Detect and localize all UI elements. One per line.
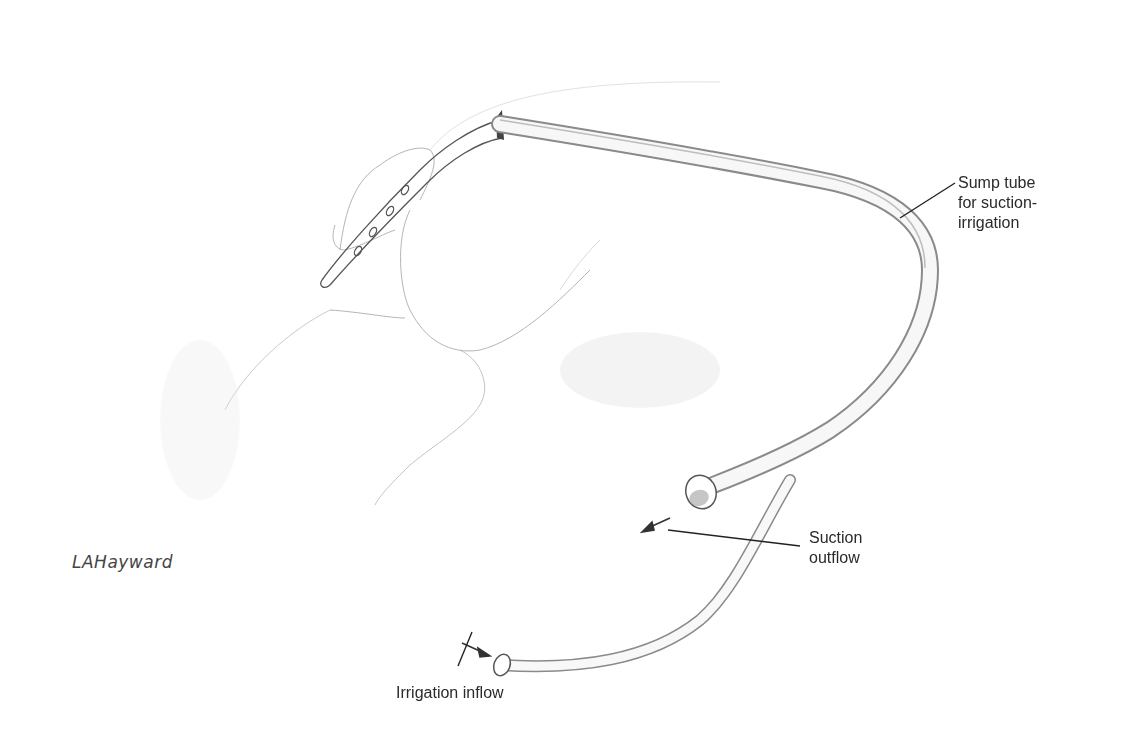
suction-outflow-leader <box>668 530 800 546</box>
irrigation-inflow-leader <box>458 632 472 666</box>
label-sump-tube: Sump tube for suction- irrigation <box>958 173 1037 233</box>
label-suction-outflow: Suction outflow <box>809 528 862 568</box>
sump-tube-leader <box>900 183 955 218</box>
irrigation-tube <box>500 480 790 666</box>
main-sump-tube <box>500 120 930 490</box>
sump-tube-illustration <box>0 0 1124 736</box>
suction-outflow-arrow-icon <box>642 518 670 532</box>
label-irrigation-inflow: Irrigation inflow <box>396 683 504 703</box>
leader-lines <box>458 183 955 666</box>
artist-signature: LAHayward <box>72 552 173 572</box>
perforated-tube-end <box>321 120 502 287</box>
background-shading <box>160 332 720 500</box>
irrigation-inlet-opening <box>491 652 514 678</box>
illustration-canvas <box>0 0 1124 736</box>
